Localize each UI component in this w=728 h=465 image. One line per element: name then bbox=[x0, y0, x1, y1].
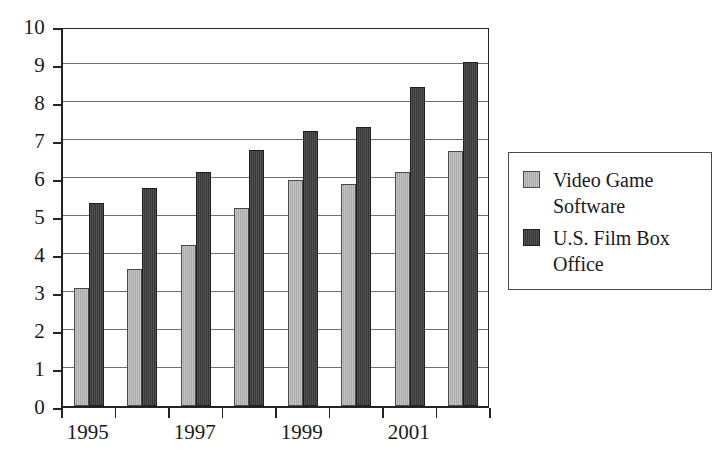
y-tick-label: 7 bbox=[11, 131, 45, 152]
legend-item-video-game-software: Video GameSoftware bbox=[523, 167, 711, 219]
x-tick-mark bbox=[168, 408, 170, 418]
x-tick-mark bbox=[436, 408, 438, 418]
y-axis: 012345678910 bbox=[0, 0, 61, 465]
y-tick-label: 4 bbox=[11, 245, 45, 266]
y-tick-label: 9 bbox=[11, 55, 45, 76]
bar bbox=[288, 180, 303, 406]
bar bbox=[181, 245, 196, 407]
y-tick-mark bbox=[53, 408, 61, 410]
legend-label-video-game-software: Video GameSoftware bbox=[553, 167, 653, 219]
x-tick-mark bbox=[222, 408, 224, 418]
legend-label-us-film-box-office: U.S. Film BoxOffice bbox=[553, 225, 670, 277]
x-tick-label: 1995 bbox=[48, 420, 128, 444]
bar bbox=[234, 208, 249, 406]
y-tick-mark bbox=[53, 104, 61, 106]
x-tick-label: 1997 bbox=[155, 420, 235, 444]
y-tick-label: 2 bbox=[11, 321, 45, 342]
bar bbox=[127, 269, 142, 406]
bar bbox=[410, 87, 425, 406]
y-tick-label: 1 bbox=[11, 359, 45, 380]
bar bbox=[196, 172, 211, 406]
x-tick-mark bbox=[275, 408, 277, 418]
bars-layer bbox=[63, 29, 488, 406]
x-tick-label: 2001 bbox=[369, 420, 449, 444]
gray-swatch-icon bbox=[523, 171, 540, 188]
bar bbox=[74, 288, 89, 406]
x-tick-mark bbox=[489, 408, 491, 418]
y-tick-label: 8 bbox=[11, 93, 45, 114]
x-tick-mark bbox=[115, 408, 117, 418]
bar bbox=[395, 172, 410, 406]
y-tick-label: 0 bbox=[11, 397, 45, 418]
y-tick-mark bbox=[53, 142, 61, 144]
plot-area bbox=[61, 28, 489, 408]
y-tick-mark bbox=[53, 256, 61, 258]
x-tick-mark bbox=[329, 408, 331, 418]
bar bbox=[303, 131, 318, 407]
y-tick-mark bbox=[53, 218, 61, 220]
bar bbox=[463, 62, 478, 406]
y-tick-mark bbox=[53, 28, 61, 30]
legend: Video GameSoftware U.S. Film BoxOffice bbox=[508, 152, 712, 290]
x-tick-mark bbox=[382, 408, 384, 418]
bar-chart: 012345678910 1995199719992001 Video Game… bbox=[0, 0, 728, 465]
bar bbox=[448, 151, 463, 406]
dark-swatch-icon bbox=[523, 229, 540, 246]
y-tick-mark bbox=[53, 332, 61, 334]
y-tick-label: 3 bbox=[11, 283, 45, 304]
y-tick-mark bbox=[53, 66, 61, 68]
y-tick-mark bbox=[53, 180, 61, 182]
bar bbox=[356, 127, 371, 406]
y-tick-mark bbox=[53, 370, 61, 372]
x-tick-label: 1999 bbox=[262, 420, 342, 444]
x-tick-mark bbox=[61, 408, 63, 418]
y-tick-mark bbox=[53, 294, 61, 296]
y-tick-label: 10 bbox=[11, 17, 45, 38]
bar bbox=[341, 184, 356, 406]
y-tick-label: 6 bbox=[11, 169, 45, 190]
bar bbox=[142, 188, 157, 407]
bar bbox=[249, 150, 264, 407]
legend-item-us-film-box-office: U.S. Film BoxOffice bbox=[523, 225, 711, 277]
y-tick-label: 5 bbox=[11, 207, 45, 228]
bar bbox=[89, 203, 104, 406]
